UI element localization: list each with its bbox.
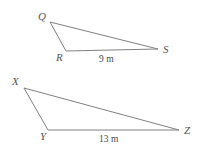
vertex-label-y: Y: [40, 131, 46, 142]
side-length-label-rs: 9 m: [99, 54, 114, 64]
vertex-label-z: Z: [184, 125, 190, 136]
side-length-label-yz: 13 m: [99, 134, 118, 144]
segment-RS: [66, 49, 158, 51]
vertex-label-s: S: [163, 44, 169, 55]
triangle-QRS: [50, 22, 158, 51]
segment-QS: [50, 22, 158, 49]
segment-XY: [24, 88, 48, 130]
vertex-label-x: X: [12, 76, 19, 87]
vertex-label-r: R: [56, 52, 63, 63]
segment-XZ: [24, 88, 179, 130]
vertex-label-q: Q: [38, 11, 46, 22]
segment-QR: [50, 22, 66, 51]
triangle-XYZ: [24, 88, 179, 130]
geometry-figure: Q R S 9 m X Y Z 13 m: [0, 0, 201, 160]
